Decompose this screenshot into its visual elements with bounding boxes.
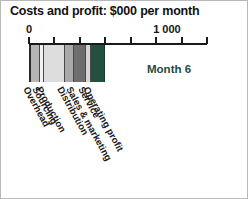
axis-tick-200 xyxy=(53,37,55,44)
bar-segment[interactable] xyxy=(44,45,66,82)
axis-tick-1400 xyxy=(206,37,208,44)
axis-tick-800 xyxy=(130,37,132,44)
axis-tick-0 xyxy=(28,37,30,44)
axis-tick-400 xyxy=(79,37,81,44)
axis-tick-600 xyxy=(104,37,106,44)
axis-tick-label-1000: 1 000 xyxy=(153,23,181,35)
bar-segment[interactable] xyxy=(31,45,40,82)
bar-segment[interactable] xyxy=(65,45,74,82)
chart-figure: Costs and profit: $000 per month 01 000 … xyxy=(0,0,248,199)
axis-tick-1200 xyxy=(181,37,183,44)
axis-tick-1000 xyxy=(155,37,157,44)
bar-segment[interactable] xyxy=(74,45,85,82)
bar-segment[interactable] xyxy=(91,45,104,82)
axis-tick-label-0: 0 xyxy=(26,23,32,35)
month-annotation: Month 6 xyxy=(147,63,191,75)
stacked-bar xyxy=(29,45,105,82)
